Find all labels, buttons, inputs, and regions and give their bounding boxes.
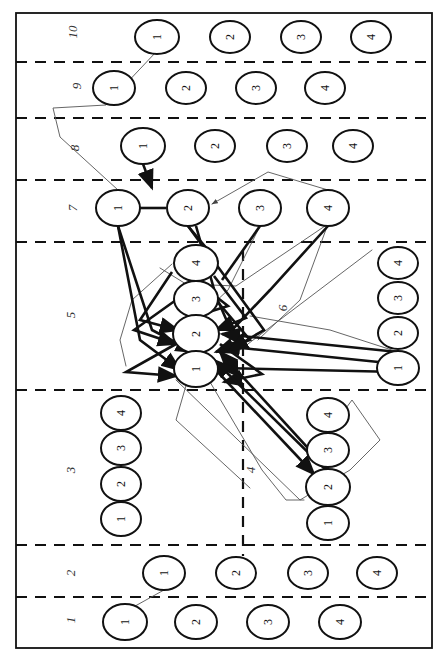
node-g3-3-label: 3 [114, 445, 128, 451]
node-g6-3[interactable]: 3 [378, 282, 418, 314]
node-g10-4[interactable]: 4 [351, 21, 391, 53]
frame-rect [16, 13, 432, 648]
row-label-4: 4 [243, 466, 258, 473]
node-g9-2-label: 2 [179, 85, 193, 91]
node-g6-1[interactable]: 1 [377, 351, 419, 385]
e-bold-18 [214, 368, 314, 474]
node-g2-3[interactable]: 3 [288, 557, 328, 589]
node-g1-2-label: 2 [189, 619, 203, 625]
e-bold-1 [143, 164, 152, 188]
node-g6-4[interactable]: 4 [378, 247, 418, 279]
row-label-1: 1 [63, 617, 78, 624]
node-g5-4-label: 4 [189, 260, 203, 266]
node-g10-2-label: 2 [223, 34, 237, 40]
node-g5-4[interactable]: 4 [174, 245, 218, 281]
node-g5-1[interactable]: 1 [174, 351, 218, 387]
node-g5-1-label: 1 [189, 366, 203, 372]
node-g1-4-label: 4 [333, 619, 347, 625]
node-g9-3[interactable]: 3 [236, 72, 276, 104]
node-g4-3[interactable]: 3 [307, 433, 349, 467]
node-g8-1-label: 1 [136, 143, 150, 149]
row-label-2: 2 [63, 569, 78, 576]
outer-frame [16, 13, 432, 648]
row-label-6: 6 [275, 304, 290, 311]
node-g7-3[interactable]: 3 [239, 190, 281, 226]
node-g10-3-label: 3 [294, 34, 308, 40]
node-g9-3-label: 3 [249, 85, 263, 91]
node-g2-3-label: 3 [301, 570, 315, 576]
node-g2-4[interactable]: 4 [357, 557, 397, 589]
node-g4-4-label: 4 [321, 412, 335, 418]
node-g9-4[interactable]: 4 [305, 72, 345, 104]
node-g4-1[interactable]: 1 [307, 506, 349, 540]
node-g8-1[interactable]: 1 [121, 128, 165, 164]
node-g4-1-label: 1 [321, 520, 335, 526]
node-g1-3-label: 3 [261, 619, 275, 625]
e-thin-8 [210, 382, 304, 500]
e-thin-11 [250, 316, 398, 352]
node-g4-2[interactable]: 2 [306, 469, 350, 505]
node-g5-3[interactable]: 3 [174, 281, 218, 317]
diagram-canvas: 1234123412341234432143214321432112341234… [0, 0, 446, 656]
node-g7-2[interactable]: 2 [167, 190, 209, 226]
node-g10-3[interactable]: 3 [281, 21, 321, 53]
node-g10-1[interactable]: 1 [135, 20, 179, 54]
row-label-3: 3 [63, 466, 78, 474]
node-g1-1[interactable]: 1 [103, 604, 147, 640]
node-g7-1[interactable]: 1 [96, 190, 140, 226]
node-g5-3-label: 3 [189, 296, 203, 302]
node-g3-2-label: 2 [114, 481, 128, 487]
node-g3-1-label: 1 [114, 516, 128, 522]
node-g3-4[interactable]: 4 [101, 396, 141, 430]
node-g6-2[interactable]: 2 [378, 317, 418, 349]
node-g1-1-label: 1 [118, 619, 132, 625]
node-g8-4[interactable]: 4 [333, 130, 373, 162]
row-label-9: 9 [69, 82, 84, 89]
node-g1-3[interactable]: 3 [247, 605, 289, 639]
row-label-10: 10 [65, 25, 80, 39]
node-g8-4-label: 4 [346, 143, 360, 149]
node-g8-2[interactable]: 2 [195, 130, 235, 162]
node-g2-1-label: 1 [157, 570, 171, 576]
row-label-7: 7 [65, 204, 80, 211]
e-bold-15 [220, 368, 398, 372]
node-g8-3-label: 3 [280, 143, 294, 149]
node-g6-1-label: 1 [391, 365, 405, 371]
node-g10-4-label: 4 [364, 34, 378, 40]
node-g1-4[interactable]: 4 [319, 605, 361, 639]
node-g9-1-label: 1 [107, 85, 121, 91]
node-g6-4-label: 4 [391, 260, 405, 266]
node-g4-2-label: 2 [321, 484, 335, 490]
node-g3-4-label: 4 [114, 410, 128, 416]
node-g9-4-label: 4 [318, 85, 332, 91]
node-g5-2[interactable]: 2 [173, 315, 219, 353]
row-label-8: 8 [67, 144, 82, 151]
node-g7-4-label: 4 [321, 205, 335, 211]
node-g10-1-label: 1 [150, 34, 164, 40]
node-g2-1[interactable]: 1 [143, 556, 185, 590]
node-g10-2[interactable]: 2 [210, 21, 250, 53]
node-g3-2[interactable]: 2 [101, 467, 141, 501]
node-layer: 1234123412341234432143214321432112341234 [93, 20, 419, 640]
node-g6-2-label: 2 [391, 330, 405, 336]
node-g7-3-label: 3 [253, 205, 267, 211]
node-g4-3-label: 3 [321, 447, 335, 453]
node-g8-2-label: 2 [208, 143, 222, 149]
diagram-svg: 1234123412341234432143214321432112341234… [0, 0, 446, 656]
node-g7-4[interactable]: 4 [307, 190, 349, 226]
node-g9-1[interactable]: 1 [93, 71, 135, 105]
node-g9-2[interactable]: 2 [166, 72, 206, 104]
row-label-5: 5 [63, 311, 78, 318]
node-g6-3-label: 3 [391, 295, 405, 301]
node-g8-3[interactable]: 3 [267, 130, 307, 162]
node-g1-2[interactable]: 2 [175, 605, 217, 639]
node-g7-2-label: 2 [181, 205, 195, 211]
node-g5-2-label: 2 [189, 331, 203, 337]
node-g3-1[interactable]: 1 [101, 502, 141, 536]
node-g2-2-label: 2 [229, 570, 243, 576]
node-g7-1-label: 1 [111, 205, 125, 211]
node-g2-2[interactable]: 2 [216, 557, 256, 589]
node-g2-4-label: 4 [370, 570, 384, 576]
node-g3-3[interactable]: 3 [101, 431, 141, 465]
node-g4-4[interactable]: 4 [307, 398, 349, 432]
